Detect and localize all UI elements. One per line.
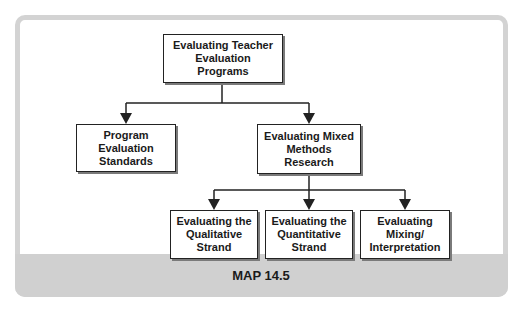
arrowhead-icon — [303, 113, 315, 124]
arrowhead-icon — [120, 113, 132, 124]
node-program-evaluation-standards: Program Evaluation Standards — [76, 124, 176, 172]
arrowhead-icon — [399, 199, 411, 210]
node-mixing-interpretation: Evaluating Mixing/ Interpretation — [360, 210, 450, 259]
node-mixed-methods: Evaluating Mixed Methods Research — [257, 124, 361, 174]
node-quantitative-strand: Evaluating the Quantitative Strand — [265, 210, 353, 259]
node-qualitative-strand: Evaluating the Qualitative Strand — [170, 210, 258, 259]
arrowhead-icon — [208, 199, 220, 210]
arrowhead-icon — [303, 199, 315, 210]
node-root: Evaluating Teacher Evaluation Programs — [163, 34, 283, 83]
